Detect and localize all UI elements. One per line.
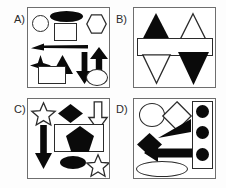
panel-b-group: B) — [113, 0, 226, 94]
panel-b-triangle-down-outline — [142, 54, 171, 84]
panel-d-circle-filled-1 — [196, 105, 209, 118]
panel-a-ellipse-filled — [50, 11, 83, 22]
panel-d-label: D) — [116, 104, 128, 115]
panel-b-triangle-down-filled — [178, 52, 209, 85]
panel-d-triangle-wedge-filled — [158, 119, 191, 138]
panel-a-square-outline — [54, 23, 77, 41]
figure-panel-grid: A) — [0, 0, 226, 188]
panel-c-arrow-down-filled — [35, 125, 52, 169]
panel-c-ellipse-filled — [60, 156, 86, 169]
panel-a-hexagon-outline — [86, 14, 107, 34]
panel-b-label: B) — [116, 14, 127, 25]
panel-c-five-point-star-outline — [31, 102, 56, 126]
panel-d-arrow-left-filled — [144, 142, 192, 162]
panel-d-circle-filled-2 — [196, 126, 209, 139]
panel-a-rectangle-outline — [38, 66, 66, 84]
panel-d-circle-filled-3 — [196, 148, 209, 161]
panel-a-label: A) — [14, 14, 25, 25]
panel-a-box — [27, 7, 110, 88]
panel-c-pentagon-filled — [66, 126, 94, 152]
panel-c-five-point-star-outline-2 — [86, 154, 110, 178]
panel-a-ellipse-outline — [86, 69, 108, 86]
panel-a-arrow-left-filled — [31, 41, 88, 52]
panel-c-box — [27, 98, 110, 179]
panel-a-group: A) — [0, 0, 113, 94]
panel-c-label: C) — [14, 104, 26, 115]
panel-c-group: C) — [0, 94, 113, 188]
panel-d-group: D) — [113, 94, 226, 188]
panel-a-circle-outline — [32, 15, 49, 32]
panel-b-box — [133, 7, 216, 88]
panel-d-box — [133, 98, 216, 179]
panel-d-ellipse-outline — [136, 161, 188, 177]
panel-c-diamond-filled — [58, 104, 83, 123]
